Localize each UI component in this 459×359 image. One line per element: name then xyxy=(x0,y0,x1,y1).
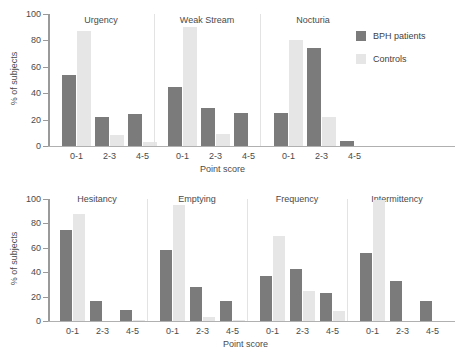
bar-bph xyxy=(234,113,248,146)
bar-controls xyxy=(73,214,85,321)
panel-title: Hesitancy xyxy=(47,195,147,204)
bar-controls xyxy=(173,205,185,321)
chart-row-top: 020406080100% of subjectsUrgency0-12-34-… xyxy=(0,0,459,185)
y-axis-tick xyxy=(43,248,48,249)
x-axis-title: Point score xyxy=(223,340,268,349)
y-axis-tick-label: 0 xyxy=(36,142,41,151)
y-axis-tick xyxy=(43,40,48,41)
y-axis xyxy=(48,14,50,146)
bar-bph xyxy=(190,287,202,321)
y-axis-tick xyxy=(43,272,48,273)
bar-controls xyxy=(322,117,336,146)
bar-bph xyxy=(260,276,272,321)
bar-controls xyxy=(183,27,197,146)
bar-bph xyxy=(160,250,172,321)
x-axis-group-label: 4-5 xyxy=(228,152,269,161)
panel-title: Intermittency xyxy=(347,195,447,204)
plot-area-top: 020406080100% of subjectsUrgency0-12-34-… xyxy=(48,0,459,185)
x-axis-group-label: 4-5 xyxy=(314,327,351,336)
y-axis xyxy=(48,199,50,321)
y-axis-tick-label: 100 xyxy=(26,195,41,204)
x-axis-group-label: 4-5 xyxy=(114,327,151,336)
legend-label-bph: BPH patients xyxy=(373,32,426,41)
bar-bph xyxy=(128,114,142,146)
y-axis-tick-label: 80 xyxy=(31,219,41,228)
bar-bph xyxy=(340,141,354,146)
y-axis-tick-label: 40 xyxy=(31,268,41,277)
bar-controls xyxy=(133,320,145,321)
y-axis-tick-label: 20 xyxy=(31,115,41,124)
bar-controls xyxy=(203,317,215,321)
bar-bph xyxy=(90,301,102,321)
y-axis-tick-label: 60 xyxy=(31,243,41,252)
bar-bph xyxy=(390,281,402,321)
x-axis-title: Point score xyxy=(200,165,245,174)
y-axis-tick xyxy=(43,223,48,224)
legend-swatch-bph-icon xyxy=(356,31,366,41)
panel-divider xyxy=(147,199,148,321)
y-axis-tick-label: 60 xyxy=(31,62,41,71)
bar-controls xyxy=(233,320,245,321)
bar-controls xyxy=(289,40,303,146)
legend-item-controls: Controls xyxy=(356,54,456,64)
bar-controls xyxy=(373,200,385,321)
x-axis xyxy=(48,321,455,322)
bar-bph xyxy=(220,301,232,321)
bar-bph xyxy=(274,113,288,146)
panel-title: Nocturia xyxy=(260,16,366,25)
bar-bph xyxy=(120,310,132,321)
y-axis-tick-label: 40 xyxy=(31,89,41,98)
bar-bph xyxy=(420,301,432,321)
y-axis-tick-label: 100 xyxy=(26,10,41,19)
x-axis-group-label: 4-5 xyxy=(122,152,163,161)
panel-divider xyxy=(347,199,348,321)
panel-divider xyxy=(247,199,248,321)
legend-label-controls: Controls xyxy=(373,55,407,64)
bar-bph xyxy=(360,253,372,321)
bar-controls xyxy=(273,236,285,321)
plot-area-bottom: 020406080100% of subjectsHesitancy0-12-3… xyxy=(48,185,459,359)
chart-row-bottom: 020406080100% of subjectsHesitancy0-12-3… xyxy=(0,185,459,359)
y-axis-tick-label: 20 xyxy=(31,292,41,301)
bar-controls xyxy=(216,134,230,146)
y-axis-tick-label: 0 xyxy=(36,317,41,326)
x-axis-group-label: 4-5 xyxy=(334,152,375,161)
bar-bph xyxy=(95,117,109,146)
panel-title: Emptying xyxy=(147,195,247,204)
bar-controls xyxy=(77,31,91,146)
bar-bph xyxy=(320,293,332,321)
y-axis-tick-label: 80 xyxy=(31,36,41,45)
bar-bph xyxy=(307,48,321,146)
x-axis xyxy=(48,146,455,147)
bar-bph xyxy=(290,269,302,321)
legend-swatch-controls-icon xyxy=(356,54,366,64)
y-axis-title: % of subjects xyxy=(10,39,19,119)
legend-item-bph: BPH patients xyxy=(356,31,456,41)
y-axis-tick xyxy=(43,297,48,298)
bar-bph xyxy=(60,230,72,322)
panel-divider xyxy=(154,14,155,146)
bar-bph xyxy=(168,87,182,146)
panel-title: Weak Stream xyxy=(154,16,260,25)
bar-controls xyxy=(303,291,315,322)
panel-title: Frequency xyxy=(247,195,347,204)
bar-controls xyxy=(333,311,345,321)
y-axis-tick xyxy=(43,14,48,15)
y-axis-title: % of subjects xyxy=(10,219,19,299)
y-axis-tick xyxy=(43,67,48,68)
bar-bph xyxy=(62,75,76,146)
y-axis-tick xyxy=(43,120,48,121)
x-axis-group-label: 4-5 xyxy=(414,327,451,336)
bar-controls xyxy=(110,135,124,146)
y-axis-tick xyxy=(43,93,48,94)
panel-title: Urgency xyxy=(48,16,154,25)
chart-legend: BPH patients Controls xyxy=(356,31,456,77)
x-axis-group-label: 4-5 xyxy=(214,327,251,336)
bar-bph xyxy=(201,108,215,146)
panel-divider xyxy=(260,14,261,146)
